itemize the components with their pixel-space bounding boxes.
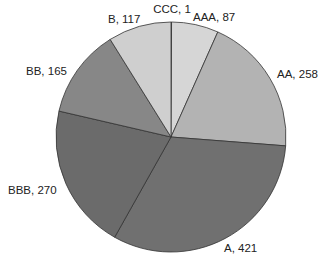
pie-slices (56, 22, 286, 252)
pie-chart: CCC, 1 AAA, 87 AA, 258 A, 421 BBB, 270 B… (0, 0, 329, 262)
label-ccc: CCC, 1 (153, 3, 191, 15)
label-b: B, 117 (108, 13, 140, 25)
label-aa: AA, 258 (277, 68, 318, 80)
label-a: A, 421 (224, 242, 257, 254)
label-bb: BB, 165 (26, 65, 67, 77)
label-bbb: BBB, 270 (8, 184, 57, 196)
label-aaa: AAA, 87 (193, 11, 235, 23)
